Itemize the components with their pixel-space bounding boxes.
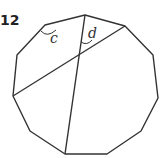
polygon-diagram: c d: [0, 0, 163, 158]
diagonals: [13, 15, 125, 154]
angle-label-c: c: [50, 30, 58, 46]
diagonal-line: [65, 15, 85, 154]
angle-label-d: d: [88, 25, 97, 41]
diagonal-line: [13, 26, 125, 96]
hendecagon-outline: [13, 15, 158, 154]
